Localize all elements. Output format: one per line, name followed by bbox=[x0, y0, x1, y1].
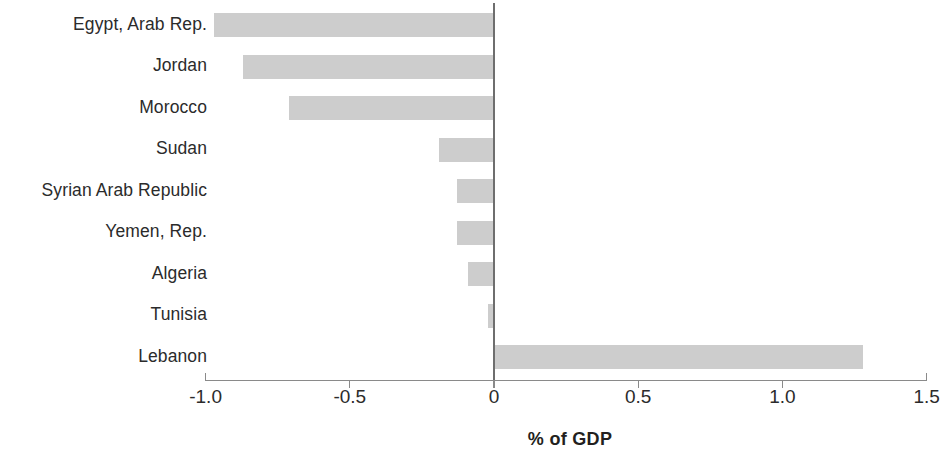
bar bbox=[289, 96, 494, 120]
bar bbox=[468, 262, 494, 286]
bar bbox=[439, 138, 494, 162]
zero-line bbox=[493, 3, 495, 380]
x-axis-tick-label: -1.0 bbox=[189, 387, 222, 406]
x-axis-line bbox=[205, 380, 926, 381]
x-axis-tick bbox=[926, 373, 927, 381]
plot-area: -1.0-0.500.51.01.5 bbox=[0, 0, 944, 457]
bar bbox=[243, 55, 494, 79]
bar-chart: Egypt, Arab Rep.JordanMoroccoSudanSyrian… bbox=[0, 0, 944, 457]
x-axis-tick-label: 0.5 bbox=[625, 387, 651, 406]
bar bbox=[494, 345, 863, 369]
bar bbox=[457, 221, 494, 245]
x-axis-tick-label: 1.5 bbox=[913, 387, 939, 406]
x-axis-tick-label: 0 bbox=[489, 387, 500, 406]
bar bbox=[214, 13, 494, 37]
x-axis-tick-label: -0.5 bbox=[333, 387, 366, 406]
bar bbox=[457, 179, 494, 203]
x-axis-title: % of GDP bbox=[528, 430, 612, 448]
x-axis-tick bbox=[205, 373, 206, 381]
x-axis-tick-label: 1.0 bbox=[769, 387, 795, 406]
